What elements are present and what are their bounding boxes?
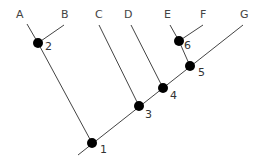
taxon-label-c: C xyxy=(95,8,103,21)
edge-d-node4 xyxy=(131,25,163,88)
taxon-label-f: F xyxy=(200,8,206,21)
edges xyxy=(27,24,243,155)
node-label-2: 2 xyxy=(45,40,52,53)
node-label-1: 1 xyxy=(100,143,107,156)
node-label-5: 5 xyxy=(198,66,205,79)
taxon-label-b: B xyxy=(61,8,69,21)
taxon-label-g: G xyxy=(240,8,249,21)
edge-c-node3 xyxy=(99,25,139,106)
node-6 xyxy=(174,36,184,46)
cladogram: A B C D E F G 1 2 3 4 5 6 xyxy=(0,0,266,164)
node-5 xyxy=(185,61,195,71)
taxon-label-a: A xyxy=(16,8,24,21)
node-labels: 1 2 3 4 5 6 xyxy=(45,39,205,156)
node-3 xyxy=(134,101,144,111)
taxon-labels: A B C D E F G xyxy=(16,8,249,21)
node-label-3: 3 xyxy=(145,108,152,121)
node-4 xyxy=(158,83,168,93)
taxon-label-d: D xyxy=(124,8,132,21)
node-label-6: 6 xyxy=(184,39,191,52)
node-label-4: 4 xyxy=(170,89,177,102)
node-2 xyxy=(33,38,43,48)
edge-node2-node1 xyxy=(38,43,92,143)
node-1 xyxy=(87,138,97,148)
taxon-label-e: E xyxy=(164,8,171,21)
